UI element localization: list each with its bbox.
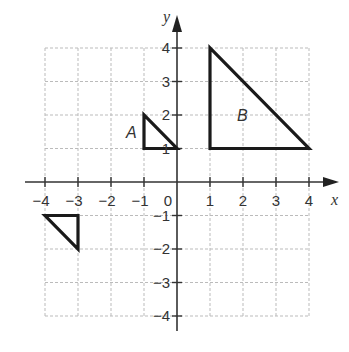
y-tick-label: −2 [153,240,170,257]
y-tick-label: 4 [162,39,170,56]
triangle-image [45,216,78,250]
x-axis-arrow-icon [323,177,339,187]
x-tick-label: 1 [206,192,214,209]
x-tick-label: −1 [131,192,148,209]
y-axis-arrow-icon [172,15,182,32]
x-axis-label: x [330,191,338,208]
y-tick-label: −1 [153,207,170,224]
triangle-b [210,48,309,149]
y-tick-label: 2 [162,106,170,123]
x-tick-label: 2 [239,192,247,209]
coordinate-plane: −4−3−2−1123404321−1−2−3−4xyAB [0,0,349,352]
x-tick-label: −4 [32,192,49,209]
x-tick-label: −2 [98,192,115,209]
y-tick-label: 3 [162,73,170,90]
x-tick-label: 4 [305,192,313,209]
triangle-b-label: B [237,107,248,124]
y-tick-label: 1 [162,140,170,157]
triangle-a-label: A [125,124,137,141]
x-tick-label: 3 [272,192,280,209]
triangle-a [144,115,177,149]
y-tick-label: −4 [153,307,170,324]
y-tick-label: −3 [153,274,170,291]
x-tick-label: −3 [65,192,82,209]
axes [25,15,339,331]
y-axis-label: y [161,8,171,26]
